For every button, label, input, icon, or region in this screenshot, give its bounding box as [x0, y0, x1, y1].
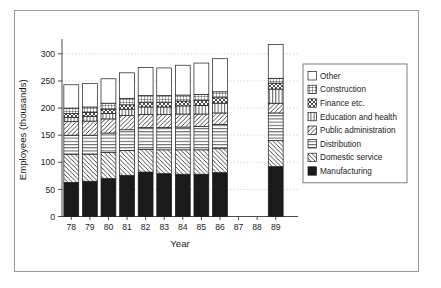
x-tick-label: 88 [252, 222, 262, 232]
y-tick-label: 250 [41, 76, 56, 86]
bar-segment [64, 182, 79, 216]
bar-segment [268, 141, 283, 167]
y-tick-label: 150 [41, 130, 56, 140]
bar-segment [101, 79, 116, 103]
legend-swatch [308, 167, 316, 175]
bar-segment [120, 109, 135, 116]
x-tick-label: 78 [67, 222, 77, 232]
legend-frame [303, 64, 407, 183]
bar-segment [120, 98, 135, 105]
bar-segment [82, 154, 97, 181]
x-tick-label: 80 [104, 222, 114, 232]
bar-segment [194, 95, 209, 101]
bar-segment [101, 119, 116, 133]
legend-label: Finance etc. [320, 99, 365, 108]
bar-segment [194, 63, 209, 94]
x-axis-title: Year [170, 238, 190, 249]
x-tick-labels: 787980818283848586878889 [67, 222, 281, 232]
bar-segment [157, 68, 172, 96]
bar-segment [175, 150, 190, 174]
bar-segment [268, 45, 283, 79]
bars [64, 45, 283, 217]
bar-segment [101, 103, 116, 109]
bar-segment [175, 174, 190, 216]
bar-segment [175, 114, 190, 127]
bar-segment [138, 107, 153, 115]
bar-segment [120, 105, 135, 109]
bar-segment [175, 95, 190, 101]
y-tick-labels: 050100150200250300 [41, 49, 56, 222]
bar-segment [213, 173, 228, 217]
legend-label: Manufacturing [320, 167, 372, 176]
bar-segment [157, 102, 172, 107]
bar-segment [157, 150, 172, 174]
bar-segment [64, 154, 79, 182]
y-tick-label: 100 [41, 157, 56, 167]
bar-segment [120, 130, 135, 151]
bar-segment [101, 133, 116, 153]
bar-segment [213, 124, 228, 148]
legend-swatch [308, 99, 316, 107]
legend-swatch [308, 126, 316, 134]
bar-segment [194, 150, 209, 174]
bar-segment [194, 127, 209, 150]
bar-segment [213, 59, 228, 92]
x-tick-label: 82 [141, 222, 151, 232]
bar-segment [194, 105, 209, 114]
bar-segment [64, 85, 79, 108]
bar-segment [138, 128, 153, 150]
bar-segment [120, 116, 135, 130]
bar-segment [138, 96, 153, 103]
y-tick-label: 0 [50, 212, 55, 222]
stacked-bar-chart: 050100150200250300 787980818283848586878… [0, 0, 441, 288]
bar-segment [175, 106, 190, 114]
x-tick-label: 89 [271, 222, 281, 232]
legend-swatch [308, 72, 316, 80]
x-tick-label: 87 [234, 222, 244, 232]
bar-segment [157, 115, 172, 128]
bar-segment [120, 175, 135, 216]
legend-swatch [308, 153, 316, 161]
x-tick-label: 81 [122, 222, 132, 232]
y-axis-title: Employees (thousands) [17, 79, 28, 180]
bar-segment [194, 100, 209, 105]
bar-segment [82, 135, 97, 154]
bar-segment [175, 101, 190, 106]
bar-segment [268, 167, 283, 217]
bar-segment [101, 113, 116, 118]
bar-segment [82, 121, 97, 135]
bar-segment [213, 103, 228, 113]
bar-segment [213, 98, 228, 103]
x-tick-label: 83 [159, 222, 169, 232]
bar-segment [120, 150, 135, 175]
legend-label: Construction [320, 85, 366, 94]
bar-segment [268, 89, 283, 103]
bar-segment [268, 113, 283, 141]
bar-segment [268, 103, 283, 113]
bar-segment [157, 128, 172, 150]
figure: 050100150200250300 787980818283848586878… [0, 0, 441, 288]
bar-segment [194, 174, 209, 216]
bar-segment [82, 107, 97, 112]
legend-swatch [308, 140, 316, 148]
x-tick-label: 85 [197, 222, 207, 232]
bar-segment [101, 179, 116, 217]
bar-segment [157, 174, 172, 217]
legend-swatch [308, 112, 316, 120]
bar-segment [194, 114, 209, 126]
bar-segment [138, 102, 153, 107]
legend-label: Distribution [320, 140, 361, 149]
bar-segment [101, 109, 116, 113]
bar-segment [82, 181, 97, 216]
x-tick-label: 79 [85, 222, 95, 232]
legend-swatch [308, 85, 316, 93]
bar-segment [213, 149, 228, 173]
legend-label: Other [320, 72, 341, 81]
legend-label: Education and health [320, 113, 397, 122]
y-tick-label: 300 [41, 49, 56, 59]
bar-segment [82, 116, 97, 121]
bar-segment [64, 108, 79, 113]
bar-segment [120, 73, 135, 98]
bar-segment [64, 122, 79, 136]
legend-label: Public administration [320, 126, 396, 135]
